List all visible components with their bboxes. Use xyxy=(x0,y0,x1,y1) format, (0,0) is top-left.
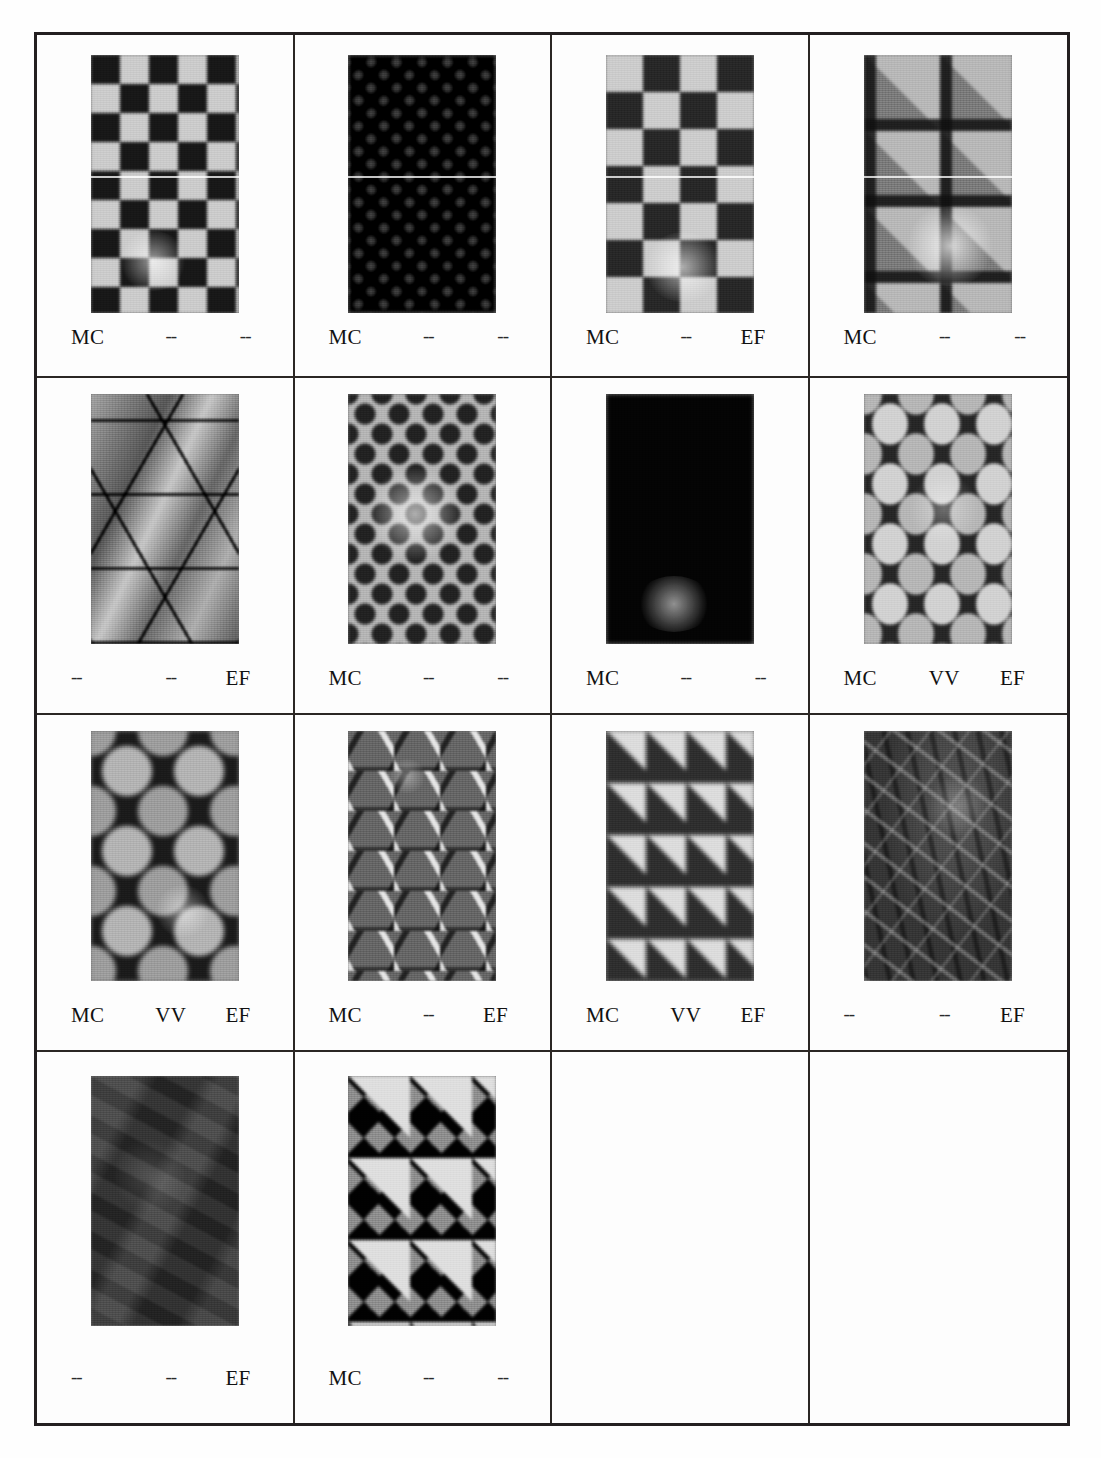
grid-cell-empty xyxy=(810,1052,1068,1423)
label-ef: EF xyxy=(204,666,271,691)
figure-page: MC----MC----MC--EFMC--------EFMC----MC--… xyxy=(0,0,1101,1458)
cell-label-row: MC---- xyxy=(295,1366,551,1391)
grid-cell: MC--EF xyxy=(552,35,810,378)
label-vv-absent: -- xyxy=(395,666,462,691)
micrograph-image xyxy=(348,1076,496,1326)
micrograph-texture xyxy=(348,1076,496,1326)
grid-cell: MC---- xyxy=(810,35,1068,378)
cell-label-row: MC---- xyxy=(295,325,551,350)
label-mc: MC xyxy=(329,1003,396,1028)
micrograph-texture xyxy=(606,55,754,313)
micrograph-texture xyxy=(348,55,496,313)
label-mc: MC xyxy=(586,325,653,350)
label-mc: MC xyxy=(329,1366,396,1391)
cell-label-row: ----EF xyxy=(37,1366,293,1391)
micrograph-image xyxy=(348,394,496,644)
cell-label-row: MC--EF xyxy=(295,1003,551,1028)
grid-cell: MC--EF xyxy=(295,715,553,1052)
micrograph-table: MC----MC----MC--EFMC--------EFMC----MC--… xyxy=(34,32,1070,1426)
micrograph-texture xyxy=(348,394,496,644)
micrograph-image xyxy=(864,55,1012,313)
cell-label-row: MC---- xyxy=(295,666,551,691)
micrograph-image xyxy=(864,731,1012,981)
label-vv-absent: -- xyxy=(653,666,720,691)
label-mc: MC xyxy=(844,666,911,691)
label-vv-absent: -- xyxy=(395,1366,462,1391)
micrograph-image xyxy=(91,394,239,644)
grid-cell: MC---- xyxy=(295,1052,553,1423)
label-mc-absent: -- xyxy=(844,1003,911,1028)
label-vv: VV xyxy=(138,1003,205,1028)
micrograph-image xyxy=(606,731,754,981)
label-ef-absent: -- xyxy=(462,1366,529,1391)
cell-label-row: MC---- xyxy=(37,325,293,350)
label-mc: MC xyxy=(586,1003,653,1028)
label-vv-absent: -- xyxy=(138,1366,205,1391)
cell-label-row: MCVVEF xyxy=(552,1003,808,1028)
label-ef-absent: -- xyxy=(719,666,786,691)
grid-cell-empty xyxy=(552,1052,810,1423)
label-ef-absent: -- xyxy=(462,325,529,350)
label-vv-absent: -- xyxy=(911,1003,978,1028)
grid-cell: MC---- xyxy=(295,378,553,715)
label-ef: EF xyxy=(204,1003,271,1028)
label-mc: MC xyxy=(329,325,396,350)
label-vv: VV xyxy=(911,666,978,691)
label-mc: MC xyxy=(844,325,911,350)
micrograph-texture xyxy=(606,394,754,644)
cell-label-row: MCVVEF xyxy=(37,1003,293,1028)
label-vv-absent: -- xyxy=(138,666,205,691)
label-mc-absent: -- xyxy=(71,1366,138,1391)
grid-cell: ----EF xyxy=(37,378,295,715)
label-vv-absent: -- xyxy=(138,325,205,350)
grid-cell: ----EF xyxy=(37,1052,295,1423)
label-ef: EF xyxy=(719,1003,786,1028)
micrograph-image xyxy=(864,394,1012,644)
micrograph-texture xyxy=(91,394,239,644)
label-ef-absent: -- xyxy=(462,666,529,691)
cell-label-row: MC---- xyxy=(810,325,1068,350)
label-vv-absent: -- xyxy=(911,325,978,350)
micrograph-texture xyxy=(864,55,1012,313)
label-ef: EF xyxy=(719,325,786,350)
cell-label-row: MCVVEF xyxy=(810,666,1068,691)
micrograph-texture xyxy=(91,1076,239,1326)
cell-label-row: MC--EF xyxy=(552,325,808,350)
micrograph-image xyxy=(606,394,754,644)
label-mc: MC xyxy=(586,666,653,691)
label-ef: EF xyxy=(462,1003,529,1028)
label-vv: VV xyxy=(653,1003,720,1028)
cell-label-row: MC---- xyxy=(552,666,808,691)
micrograph-image xyxy=(91,1076,239,1326)
micrograph-texture xyxy=(91,55,239,313)
grid-cell: MC---- xyxy=(37,35,295,378)
micrograph-image xyxy=(606,55,754,313)
grid-cell: MC---- xyxy=(552,378,810,715)
label-mc: MC xyxy=(71,1003,138,1028)
micrograph-texture xyxy=(606,731,754,981)
micrograph-texture xyxy=(864,731,1012,981)
label-mc: MC xyxy=(329,666,396,691)
label-mc: MC xyxy=(71,325,138,350)
grid-cell: MCVVEF xyxy=(552,715,810,1052)
label-ef: EF xyxy=(978,1003,1045,1028)
micrograph-image xyxy=(91,55,239,313)
label-ef: EF xyxy=(204,1366,271,1391)
grid-cell: ----EF xyxy=(810,715,1068,1052)
micrograph-image xyxy=(91,731,239,981)
micrograph-image xyxy=(348,55,496,313)
cell-label-row: ----EF xyxy=(37,666,293,691)
label-mc-absent: -- xyxy=(71,666,138,691)
micrograph-grid: MC----MC----MC--EFMC--------EFMC----MC--… xyxy=(37,35,1067,1423)
cell-label-row: ----EF xyxy=(810,1003,1068,1028)
label-vv-absent: -- xyxy=(395,1003,462,1028)
micrograph-image xyxy=(348,731,496,981)
label-ef-absent: -- xyxy=(204,325,271,350)
micrograph-texture xyxy=(348,731,496,981)
label-ef: EF xyxy=(978,666,1045,691)
micrograph-texture xyxy=(864,394,1012,644)
label-ef-absent: -- xyxy=(978,325,1045,350)
grid-cell: MC---- xyxy=(295,35,553,378)
label-vv-absent: -- xyxy=(653,325,720,350)
grid-cell: MCVVEF xyxy=(810,378,1068,715)
